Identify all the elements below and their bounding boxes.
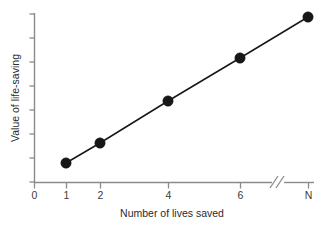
line-chart-plot: 0 1 2 4 6 N Number of lives saved Value … xyxy=(0,0,328,227)
data-point xyxy=(163,96,173,106)
x-tick-label-6: 6 xyxy=(238,189,244,201)
data-point xyxy=(95,138,105,148)
x-axis-ticks xyxy=(35,183,309,189)
axis-break-icon xyxy=(270,176,284,188)
y-axis-ticks xyxy=(30,14,35,182)
x-tick-label-1: 1 xyxy=(64,189,70,201)
x-tick-label-n: N xyxy=(305,189,313,201)
x-axis-title: Number of lives saved xyxy=(120,207,224,219)
x-tick-label-2: 2 xyxy=(98,189,104,201)
x-tick-label-0: 0 xyxy=(32,189,38,201)
chart-figure: 0 1 2 4 6 N Number of lives saved Value … xyxy=(0,0,328,227)
y-axis-title: Value of life-saving xyxy=(9,54,21,142)
data-point xyxy=(61,158,71,168)
data-point xyxy=(235,53,245,63)
data-point xyxy=(303,12,313,22)
x-tick-label-4: 4 xyxy=(166,189,172,201)
